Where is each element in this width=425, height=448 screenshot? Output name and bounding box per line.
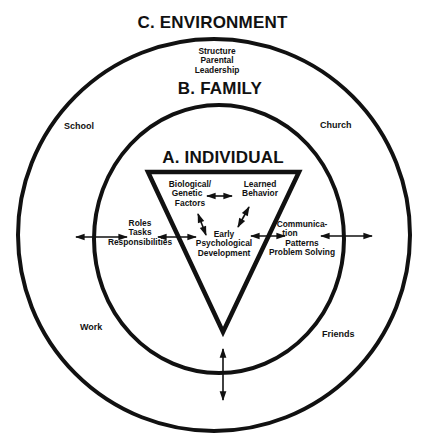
individual-title: A. INDIVIDUAL: [148, 148, 298, 167]
family-title: B. FAMILY: [155, 79, 285, 98]
family-structure-label: Structure Parental Leadership: [162, 47, 272, 75]
environment-title: C. ENVIRONMENT: [0, 13, 425, 32]
behavior-line: Behavior: [232, 189, 288, 198]
environment-item-friends: Friends: [322, 329, 382, 339]
learned-behavior-label: Learned Behavior: [232, 180, 288, 199]
responsibilities-line: Responsibilities: [100, 238, 180, 247]
leadership-line: Leadership: [162, 66, 272, 75]
factors-line: Factors: [160, 199, 220, 208]
development-line: Development: [188, 249, 260, 258]
biological-genetic-factors-label: Biological/ Genetic Factors: [160, 180, 220, 208]
problem-solving-line: Problem Solving: [262, 248, 342, 257]
roles-tasks-label: Roles Tasks Responsibilities: [100, 219, 180, 247]
environment-item-school: School: [64, 121, 124, 131]
communication-patterns-label: Communica- tion Patterns Problem Solving: [262, 220, 342, 258]
communication-line: Communica-: [262, 220, 342, 229]
environment-item-church: Church: [320, 120, 380, 130]
environment-item-work: Work: [80, 322, 140, 332]
learned-development-arrow: [238, 207, 249, 227]
